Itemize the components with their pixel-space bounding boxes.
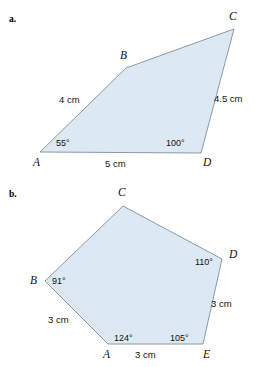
- angle-measure-b-B: 91°: [52, 277, 66, 286]
- vertex-label-b-C: C: [118, 187, 126, 199]
- vertex-label-b-E: E: [203, 349, 210, 361]
- side-length-a-AB: 4 cm: [59, 95, 80, 105]
- quadrilateral-ABCD: [40, 29, 234, 153]
- pentagon-ABCDE: [45, 206, 222, 344]
- vertex-label-b-D: D: [229, 249, 237, 261]
- angle-measure-b-D: 110°: [195, 258, 213, 267]
- angle-measure-b-A: 124°: [114, 334, 133, 343]
- side-length-b-AE: 3 cm: [135, 350, 156, 360]
- vertex-label-b-B: B: [30, 275, 37, 287]
- vertex-label-a-A: A: [33, 157, 40, 169]
- side-length-b-DE: 3 cm: [211, 299, 232, 309]
- angle-measure-a-A: 55°: [56, 139, 70, 148]
- figure-a: a. A B C D 4 cm 4.5 cm 5 cm 55° 100°: [0, 0, 267, 185]
- side-length-a-CD: 4.5 cm: [214, 94, 243, 104]
- angle-measure-a-D: 100°: [166, 139, 185, 148]
- figure-b: b. A B C D E 3 cm 3 cm 3 cm 91° 110° 124…: [0, 180, 267, 367]
- polygon-b-svg: [0, 180, 267, 367]
- angle-measure-b-E: 105°: [170, 334, 189, 343]
- vertex-label-a-C: C: [229, 11, 237, 23]
- vertex-label-a-B: B: [120, 50, 127, 62]
- side-length-a-AD: 5 cm: [105, 159, 126, 169]
- vertex-label-a-D: D: [203, 157, 211, 169]
- side-length-b-BA: 3 cm: [48, 315, 69, 325]
- vertex-label-b-A: A: [103, 349, 110, 361]
